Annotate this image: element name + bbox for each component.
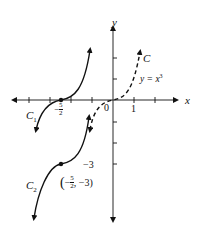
curve-c-label: C [143, 53, 150, 64]
curve-c1-label: C1 [26, 110, 37, 124]
point-annotation: ( − 5 2 , −3) [60, 175, 93, 190]
x-axis-label: x [185, 95, 190, 106]
y-axis [113, 28, 117, 220]
cubic-translation-diagram: y x 0 1 −3 − 5 2 C y = x3 C1 C2 ( − 5 2 … [0, 0, 203, 227]
y-axis-ticks [113, 58, 117, 164]
y-axis-label: y [112, 17, 117, 28]
curve-c1 [36, 50, 90, 130]
x-label-neg-five-halves: − 5 2 [54, 102, 63, 117]
x-tick-label-1: 1 [131, 104, 136, 114]
curve-c-equation: y = x3 [140, 73, 163, 85]
y-tick-label-neg3: −3 [83, 160, 94, 170]
x-axis [14, 97, 176, 103]
curve-c2-label: C2 [26, 180, 37, 194]
curve-c2 [34, 117, 89, 218]
origin-label: 0 [104, 103, 109, 113]
point-c2-inflection [59, 162, 63, 166]
curve-c-dashed [90, 52, 140, 130]
